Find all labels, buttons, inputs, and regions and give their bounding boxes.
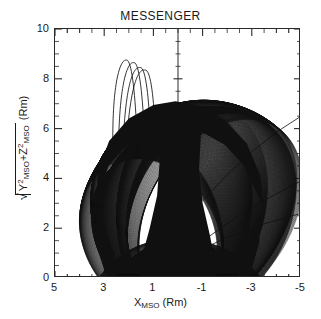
y-tick-label: 10 (29, 22, 49, 34)
y-tick-label: 4 (29, 171, 49, 183)
y-tick-label: 8 (29, 72, 49, 84)
x-tick-label: 5 (51, 281, 57, 293)
y-axis-sub-1: MSO (22, 161, 31, 179)
plot-area (54, 28, 300, 277)
y-axis-unit: (Rm) (17, 96, 29, 124)
y-tick-label: 0 (29, 271, 49, 283)
x-axis-subscript: MSO (141, 301, 159, 310)
x-tick-label: 3 (100, 281, 106, 293)
x-tick-label: -1 (197, 281, 207, 293)
orbit-traces-canvas (55, 29, 300, 277)
y-tick-label: 2 (29, 221, 49, 233)
x-axis-title: XMSO (Rm) (0, 296, 321, 310)
y-axis-sup-2: 2 (16, 143, 25, 147)
y-axis-sup-1: 2 (16, 179, 25, 183)
y-tick-label: 6 (29, 122, 49, 134)
y-axis-plus-z: +Z (17, 148, 29, 161)
x-tick-label: -5 (295, 281, 305, 293)
y-axis-title: √Y2MSO+Z2MSO (Rm) (15, 63, 31, 233)
y-axis-sub-2: MSO (22, 125, 31, 143)
y-axis-radicand: Y2MSO+Z2MSO (15, 123, 31, 195)
x-tick-label: -3 (246, 281, 256, 293)
y-axis-symbol-y: Y (17, 184, 29, 191)
plot-title: MESSENGER (0, 9, 321, 23)
x-tick-label: 1 (149, 281, 155, 293)
messenger-orbit-coverage-figure: MESSENGER 531-1-3-5 1086420 XMSO (Rm) √Y… (0, 0, 321, 319)
x-axis-unit: (Rm) (160, 296, 188, 308)
